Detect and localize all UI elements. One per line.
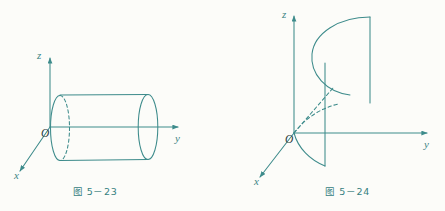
- cylinder-top-edge: [60, 95, 148, 96]
- z-axis-label: z: [282, 9, 286, 20]
- x-axis-label: x: [14, 170, 19, 181]
- figure-5-24: z y x O 图 5－24: [222, 0, 445, 211]
- figure-5-23: z y x O 图 5－23: [0, 0, 222, 211]
- z-axis-label: z: [37, 50, 41, 61]
- cylinder-left-cap-visible: [51, 96, 60, 161]
- parabola-back-upper: [312, 17, 370, 95]
- figure-5-23-caption: 图 5－23: [0, 184, 206, 198]
- figure-5-23-drawing: [0, 0, 222, 211]
- cylinder-bottom-edge: [60, 160, 148, 161]
- y-axis-label: y: [175, 133, 180, 144]
- origin-label: O: [41, 128, 49, 140]
- figure-5-24-caption: 图 5－24: [236, 184, 445, 198]
- y-axis-label: y: [424, 139, 429, 150]
- parabola-front-lower: [294, 133, 325, 166]
- cylinder-left-cap-hidden: [60, 96, 70, 161]
- origin-label: O: [285, 134, 293, 146]
- figure-page: z y x O 图 5－23: [0, 0, 445, 211]
